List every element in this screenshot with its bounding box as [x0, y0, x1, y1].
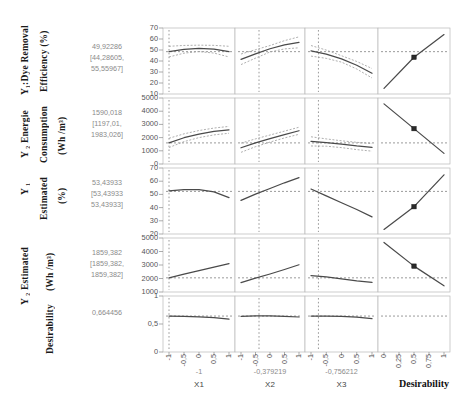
panel-frame-r3-c2	[305, 238, 378, 292]
ytick-r0-1: 60	[118, 35, 158, 42]
factor-name-x1: X1	[163, 380, 235, 389]
row-unit-y2-energie: (Wh /m³)	[58, 108, 70, 164]
factor-current-x3[interactable]: -0,756212	[305, 367, 378, 376]
row-unit-y1-estimated: (%)	[58, 182, 70, 210]
xtick-x1-4: 1	[225, 354, 232, 358]
ytick-r4-0: 1	[118, 292, 158, 299]
panel-frame-r4-c3	[378, 296, 450, 352]
desirability-marker-r0[interactable]	[412, 55, 416, 59]
row-sublabel-y1-estimated: Estimated	[40, 170, 52, 228]
xtick-x1-0: -1	[165, 354, 172, 360]
panel-frame-r4-c0	[163, 296, 235, 352]
panel-frame-r0-c2	[305, 28, 378, 94]
xtick-x2-0: -1	[237, 354, 244, 360]
panel-frame-r3-c1	[235, 238, 305, 292]
row-sublabel-y2-energie: Consumption	[40, 100, 52, 168]
xtick-x2-2: 0	[266, 354, 273, 358]
row-label-y1-estimated: Y ₁	[21, 178, 33, 200]
row-unit-y2-estimated: (Wh /m³)	[46, 244, 58, 300]
xtick-x3-4: 1	[368, 354, 375, 358]
xtick-x1-2: 0	[195, 354, 202, 358]
panel-frame-r2-c2	[305, 168, 378, 234]
xtick-x3-1: -0,5	[322, 354, 329, 366]
factor-current-x1[interactable]: -1	[163, 367, 235, 376]
ytick-r4-1: 0,5	[118, 320, 158, 327]
panel-frame-r1-c0	[163, 98, 235, 164]
ytick-r2-1: 60	[118, 177, 158, 184]
panel-frame-r1-c2	[305, 98, 378, 164]
ytick-r0-0: 70	[118, 24, 158, 31]
desirability-marker-r2[interactable]	[412, 204, 416, 208]
xtick-x2-3: 0,5	[281, 354, 288, 364]
xtick-x1-1: -0,5	[180, 354, 187, 366]
row-label-y2-estimated: Y ₂ Estimated	[21, 238, 33, 314]
xtick-x1-3: 0,5	[210, 354, 217, 364]
row-sublabel-y1-dye-removal: Efficiency (%)	[40, 22, 52, 100]
desirability-marker-r1[interactable]	[412, 126, 416, 130]
xtick-x3-0: -1	[307, 354, 314, 360]
ytick-r1-2: 3000	[118, 120, 158, 127]
ytick-r3-2: 3000	[118, 261, 158, 268]
ytick-r3-1: 4000	[118, 248, 158, 255]
panel-frame-r1-c1	[235, 98, 305, 164]
xtick-desirability-4: 1	[440, 354, 447, 358]
xtick-desirability-0: 0	[380, 354, 387, 358]
ytick-r0-2: 50	[118, 46, 158, 53]
ytick-r2-0: 70	[118, 164, 158, 171]
ytick-r0-4: 30	[118, 68, 158, 75]
panel-frame-r4-c2	[305, 296, 378, 352]
ytick-r3-3: 2000	[118, 275, 158, 282]
ytick-r0-5: 20	[118, 79, 158, 86]
row-label-y1-dye-removal: Y₁:Dye Removal	[21, 20, 33, 100]
factor-name-x3: X3	[305, 380, 378, 389]
factor-current-x2[interactable]: -0,379219	[235, 367, 305, 376]
ytick-r1-1: 4000	[118, 107, 158, 114]
row-label-desirability: Desirability	[46, 296, 58, 362]
ytick-r1-3: 2000	[118, 134, 158, 141]
xtick-x2-4: 1	[295, 354, 302, 358]
ytick-r2-2: 50	[118, 190, 158, 197]
xtick-x3-3: 0,5	[353, 354, 360, 364]
panel-frame-r2-c0	[163, 168, 235, 234]
panel-frame-r0-c0	[163, 28, 235, 94]
ytick-r0-3: 40	[118, 57, 158, 64]
factor-name-desirability: Desirability	[378, 378, 470, 389]
xtick-desirability-3: 0,75	[425, 354, 432, 368]
panel-frame-r4-c1	[235, 296, 305, 352]
row-label-y2-energie: Y ₂ Energie	[21, 104, 33, 164]
ytick-r1-4: 1000	[118, 147, 158, 154]
ytick-r3-0: 5000	[118, 234, 158, 241]
desirability-profiler-figure	[0, 0, 474, 408]
xtick-x3-2: 0	[338, 354, 345, 358]
xtick-desirability-1: 0,25	[395, 354, 402, 368]
response-value-desirability: 0,664456	[76, 308, 138, 318]
panel-frame-r2-c1	[235, 168, 305, 234]
ytick-r1-0: 5000	[118, 94, 158, 101]
factor-name-x2: X2	[235, 380, 305, 389]
ytick-r4-2: 0	[118, 348, 158, 355]
xtick-desirability-2: 0,5	[410, 354, 417, 364]
desirability-marker-r3[interactable]	[412, 264, 416, 268]
ytick-r2-4: 30	[118, 217, 158, 224]
panel-frame-r2-c3	[378, 168, 450, 234]
ytick-r2-3: 40	[118, 204, 158, 211]
xtick-x2-1: -0,5	[252, 354, 259, 366]
